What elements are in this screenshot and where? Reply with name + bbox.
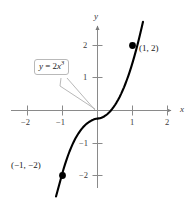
point-label-1-2: (1, 2) <box>139 44 159 53</box>
y-tick-label-1: 1 <box>83 73 87 82</box>
data-point-1-2 <box>129 42 136 49</box>
callout-leader-lines <box>60 78 95 110</box>
equation-callout: y = 2x3 <box>34 59 69 75</box>
data-point-neg1-neg2 <box>59 172 66 179</box>
x-axis-label: x <box>180 105 184 114</box>
graph-figure: y x −2 −1 1 2 2 1 −1 −2 (1, 2) (−1, −2) … <box>0 0 193 198</box>
y-axis-label: y <box>94 12 98 21</box>
equation-operator: = <box>43 61 53 71</box>
point-label-neg1-neg2: (−1, −2) <box>11 161 41 170</box>
y-tick-label-neg1: −1 <box>79 139 88 148</box>
y-tick-label-neg2: −2 <box>79 171 88 180</box>
equation-exponent: 3 <box>61 59 64 66</box>
x-tick-label-2: 2 <box>165 118 169 127</box>
x-tick-label-neg2: −2 <box>21 118 30 127</box>
x-tick-label-neg1: −1 <box>56 118 65 127</box>
curve-y-equals-2x-cubed <box>56 22 143 197</box>
x-tick-label-1: 1 <box>130 118 134 127</box>
y-tick-label-2: 2 <box>83 41 87 50</box>
